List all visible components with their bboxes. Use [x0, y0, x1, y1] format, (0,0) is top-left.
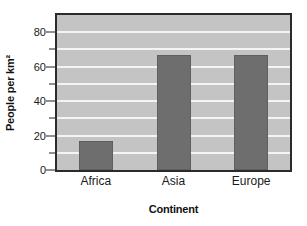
x-tick-label: Africa — [80, 174, 111, 188]
y-tick-label: 60 — [34, 61, 46, 73]
y-tick-major — [46, 101, 55, 102]
bar-chart-figure: People per km² 020406080 AfricaAsiaEurop… — [0, 0, 307, 226]
x-axis-title: Continent — [55, 203, 292, 215]
bar — [234, 55, 268, 170]
y-axis-tick-marks — [46, 13, 55, 172]
x-tick-label: Europe — [232, 174, 271, 188]
plot-area — [55, 13, 292, 172]
y-tick-label: 40 — [34, 95, 46, 107]
bar-series — [57, 15, 290, 170]
y-tick-major — [46, 135, 55, 136]
y-axis-tick-labels: 020406080 — [18, 13, 46, 172]
x-axis-tick-labels: AfricaAsiaEurope — [55, 174, 292, 192]
y-axis-title: People per km² — [0, 13, 20, 172]
y-tick-label: 20 — [34, 130, 46, 142]
y-axis-title-text: People per km² — [4, 54, 16, 130]
y-tick-major — [46, 32, 55, 33]
y-tick-label: 80 — [34, 26, 46, 38]
y-tick-major — [46, 66, 55, 67]
bar — [157, 55, 191, 170]
y-tick-major — [46, 170, 55, 171]
x-tick-label: Asia — [162, 174, 185, 188]
bar — [79, 141, 113, 170]
